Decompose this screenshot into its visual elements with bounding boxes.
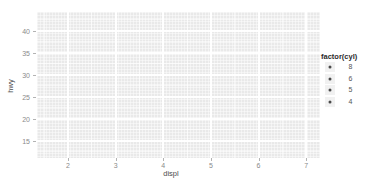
- x-tick-label: 6: [257, 162, 261, 169]
- gridline-major-x: [258, 12, 260, 158]
- gridline-minor-y: [37, 41, 320, 42]
- y-tick-label: 30: [0, 71, 30, 78]
- legend-title: factor(cyl): [321, 52, 357, 61]
- gridline-major-y: [37, 118, 320, 120]
- x-axis-title: displ: [163, 170, 178, 178]
- legend-entries: 8654: [321, 62, 357, 107]
- y-tick-mark: [33, 97, 36, 98]
- legend-entry-label: 4: [335, 98, 353, 106]
- gridline-major-x: [67, 12, 69, 158]
- legend-entry: 6: [321, 74, 357, 84]
- gridline-major-x: [162, 12, 164, 158]
- x-tick-mark: [116, 158, 117, 161]
- gridline-major-y: [37, 140, 320, 142]
- point-marker-icon: [328, 66, 331, 69]
- x-tick-label: 4: [161, 162, 165, 169]
- x-tick-mark: [163, 158, 164, 161]
- legend: factor(cyl) 8654: [321, 52, 357, 109]
- gridline-major-x: [305, 12, 307, 158]
- y-tick-label: 40: [0, 27, 30, 34]
- x-tick-mark: [306, 158, 307, 161]
- legend-entry-label: 5: [335, 86, 353, 94]
- x-tick-mark: [259, 158, 260, 161]
- gridline-major-x: [210, 12, 212, 158]
- legend-entry: 5: [321, 85, 357, 95]
- legend-key: [325, 97, 335, 107]
- legend-key: [325, 85, 335, 95]
- y-tick-mark: [33, 141, 36, 142]
- legend-entry: 8: [321, 62, 357, 72]
- y-tick-mark: [33, 75, 36, 76]
- y-tick-mark: [33, 119, 36, 120]
- gridline-minor-y: [37, 19, 320, 20]
- gridline-minor-y: [37, 63, 320, 64]
- legend-entry-label: 6: [335, 75, 353, 83]
- ggplot-figure: hwy displ factor(cyl) 8654 2345671520253…: [0, 0, 376, 188]
- x-tick-label: 3: [114, 162, 118, 169]
- gridline-major-y: [37, 74, 320, 76]
- legend-entry: 4: [321, 97, 357, 107]
- y-tick-label: 25: [0, 93, 30, 100]
- gridline-minor-y: [37, 151, 320, 152]
- point-marker-icon: [328, 77, 331, 80]
- y-axis-title: hwy: [7, 79, 15, 92]
- point-marker-icon: [328, 89, 331, 92]
- x-tick-mark: [68, 158, 69, 161]
- plot-panel: [37, 12, 320, 158]
- y-tick-mark: [33, 31, 36, 32]
- gridline-major-y: [37, 52, 320, 54]
- legend-key: [325, 62, 335, 72]
- gridline-major-y: [37, 96, 320, 98]
- legend-key: [325, 74, 335, 84]
- gridline-major-y: [37, 30, 320, 32]
- y-tick-label: 20: [0, 115, 30, 122]
- y-tick-label: 35: [0, 49, 30, 56]
- y-tick-label: 15: [0, 137, 30, 144]
- x-tick-mark: [211, 158, 212, 161]
- gridline-minor-y: [37, 129, 320, 130]
- gridline-minor-y: [37, 85, 320, 86]
- legend-entry-label: 8: [335, 63, 353, 71]
- x-tick-label: 2: [66, 162, 70, 169]
- gridline-major-x: [115, 12, 117, 158]
- y-tick-mark: [33, 53, 36, 54]
- point-marker-icon: [328, 101, 331, 104]
- gridline-minor-y: [37, 107, 320, 108]
- x-tick-label: 5: [209, 162, 213, 169]
- x-tick-label: 7: [304, 162, 308, 169]
